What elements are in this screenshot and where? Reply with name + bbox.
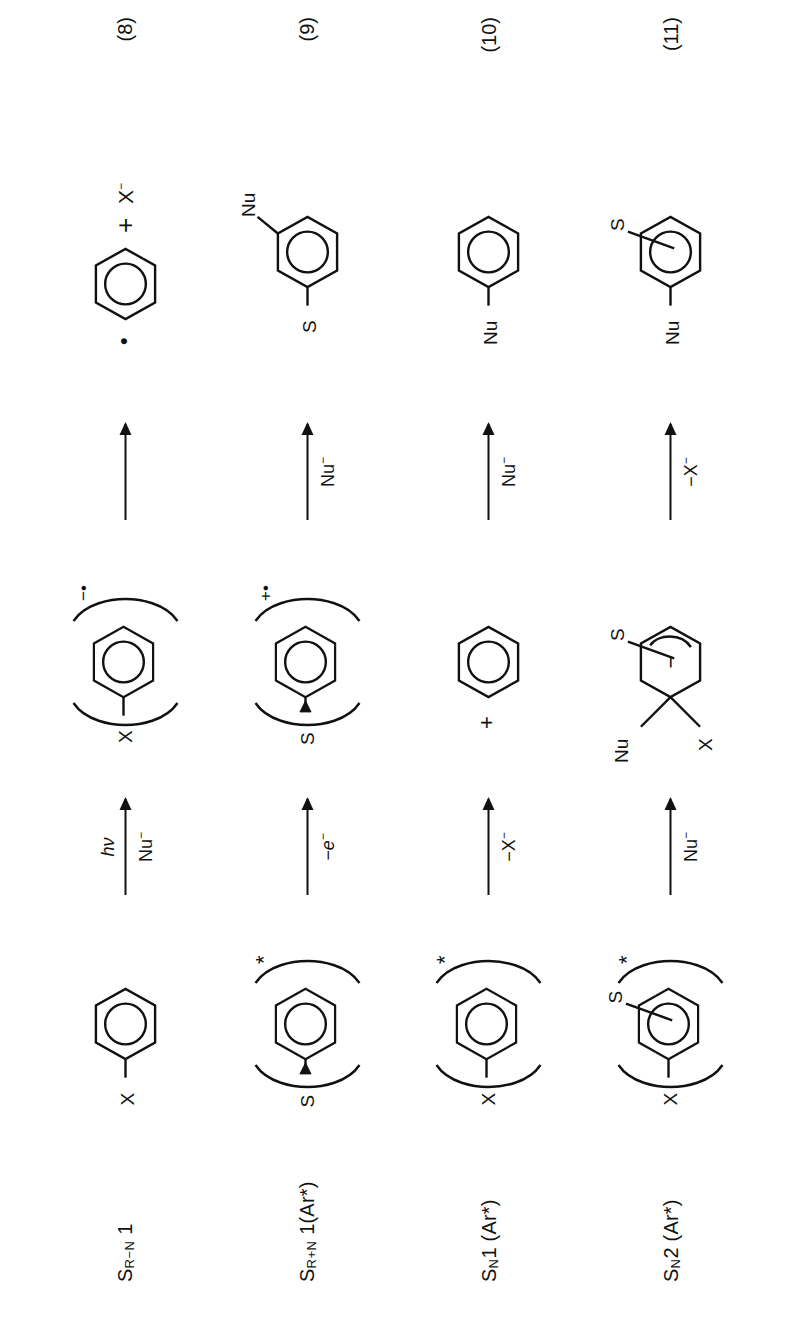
benzene-ring-icon	[268, 625, 342, 699]
charge-label: +•	[256, 585, 273, 601]
bracketed-species: X *	[449, 962, 527, 1088]
arrow-with-labels: −X−	[487, 799, 489, 895]
arrow-label-above: hν	[98, 837, 116, 856]
product: S Nu	[270, 107, 344, 397]
arrow-label-below: Nu−	[316, 457, 336, 487]
product: Nu	[451, 107, 525, 397]
reaction-arrow-1: −e−	[306, 777, 308, 917]
substituent-label-Nu: Nu	[480, 321, 499, 345]
mechanism-name: SN1 (Ar*)	[477, 1132, 500, 1282]
benzene-ring-icon	[268, 988, 342, 1062]
arrow-with-labels: hν Nu−	[124, 799, 126, 895]
benzene-with-X: X	[88, 988, 162, 1062]
equation-number-label: (9)	[295, 17, 318, 41]
charge-label: −•	[74, 585, 91, 601]
reaction-row: SN1 (Ar*) X	[412, 40, 564, 1282]
reaction-arrow-2	[124, 397, 126, 547]
arrow-with-labels	[124, 424, 126, 520]
substituent-label-S: S	[297, 1095, 316, 1108]
excited-benzene-with-X-and-S: X S	[631, 988, 705, 1062]
benzene-ring-icon	[633, 215, 707, 289]
arrow-with-labels: Nu−	[669, 799, 671, 895]
equation-number: (8)	[113, 17, 136, 107]
mechanism-name: SR+N 1(Ar*)	[295, 1132, 318, 1282]
benzene-ring-icon	[449, 988, 523, 1062]
substituent-label-X: X	[695, 738, 714, 751]
arrow-label-below: −e−	[316, 833, 336, 861]
phenyl-radical: •	[88, 247, 162, 321]
plus-sign: +	[109, 218, 140, 233]
arrow-with-labels: Nu−	[306, 424, 308, 520]
reaction-row: SN2 (Ar*) X S	[594, 40, 746, 1282]
equation-number-label: (8)	[113, 17, 136, 41]
reaction-row: SR+N 1(Ar*) S	[231, 40, 383, 1282]
reaction-arrow-1: hν Nu−	[124, 777, 126, 917]
substituent-label-S: S	[607, 218, 626, 231]
substituent-label-X: X	[478, 1093, 497, 1106]
meisenheimer-complex: − Nu X S	[633, 625, 707, 699]
ring-charge-label: −	[657, 656, 683, 669]
mechanism-name-main: S	[113, 1268, 135, 1282]
bracket-left-icon	[616, 1064, 724, 1090]
mechanism-name-tail: 2 (Ar*)	[659, 1199, 681, 1258]
substituent-label-S: S	[299, 320, 318, 333]
substituent-label-S: S	[605, 991, 624, 1004]
bracketed-species: X S *	[631, 962, 709, 1088]
arrow-with-labels: Nu−	[487, 424, 489, 520]
equation-number: (11)	[659, 17, 682, 107]
benzene-radical-cation-with-S: S	[268, 625, 342, 699]
arrow-label-below: Nu−	[679, 832, 699, 862]
substituent-label-Nu: Nu	[662, 321, 681, 345]
substituent-label-S: S	[607, 628, 626, 641]
arrow-shaft-icon	[124, 424, 126, 520]
reaction-row: SR−N 1 X hν Nu−	[49, 40, 201, 1282]
arrow-shaft-icon	[306, 799, 308, 895]
arrow-shaft-icon	[487, 424, 489, 520]
substituent-label-Nu: Nu	[238, 193, 257, 217]
arrow-label-below: Nu−	[134, 832, 154, 862]
mechanism-name-sub: N	[667, 1259, 682, 1269]
arrow-with-labels: −e−	[306, 799, 308, 895]
excited-state-star: *	[433, 956, 455, 965]
benzene-with-S-and-Nu: S Nu	[270, 215, 344, 289]
starting-material: X S *	[631, 917, 709, 1132]
mechanism-name: SR−N 1	[113, 1132, 136, 1282]
arrow-shaft-icon	[669, 424, 671, 520]
benzene-with-S-dative: S	[268, 988, 342, 1062]
equation-number-label: (10)	[477, 17, 500, 53]
arrow-shaft-icon	[669, 799, 671, 895]
bracketed-species: S *	[268, 962, 346, 1088]
benzene-ring-icon	[451, 215, 525, 289]
mechanism-name-tail: 1 (Ar*)	[477, 1199, 499, 1258]
benzene-with-Nu: Nu	[451, 215, 525, 289]
bracketed-species: S +•	[268, 599, 346, 725]
phenyl-cation: +	[451, 625, 525, 699]
intermediate: X −•	[86, 547, 164, 777]
intermediate: − Nu X S	[633, 547, 707, 777]
reaction-arrow-2: Nu−	[487, 397, 489, 547]
reaction-arrow-2: −X−	[669, 397, 671, 547]
benzene-ring-icon	[86, 625, 160, 699]
excited-state-star: *	[252, 956, 274, 965]
mechanism-name-sub: R−N	[121, 1241, 136, 1269]
arrow-shaft-icon	[124, 799, 126, 895]
bracket-right-icon	[71, 597, 179, 623]
benzene-ring-icon	[88, 988, 162, 1062]
arrow-label-below: Nu−	[497, 457, 517, 487]
benzene-ring-icon	[88, 247, 162, 321]
benzene-radical-anion: X	[86, 625, 160, 699]
figure-stage: SR−N 1 X hν Nu−	[0, 0, 791, 1328]
benzene-ring-icon	[631, 988, 705, 1062]
benzene-ring-icon	[451, 625, 525, 699]
mechanism-name-main: S	[295, 1268, 317, 1282]
equation-number-label: (11)	[659, 17, 682, 51]
radical-dot-icon: •	[112, 337, 134, 345]
reaction-arrow-2: Nu−	[306, 397, 308, 547]
mechanism-name-main: S	[659, 1268, 681, 1282]
mechanism-name-tail: 1	[113, 1223, 135, 1240]
starting-material: S *	[268, 917, 346, 1132]
charge-label: +	[475, 716, 497, 729]
substituent-label-X: X	[115, 730, 134, 743]
intermediate: S +•	[268, 547, 346, 777]
substituent-label-X: X	[117, 1093, 136, 1106]
